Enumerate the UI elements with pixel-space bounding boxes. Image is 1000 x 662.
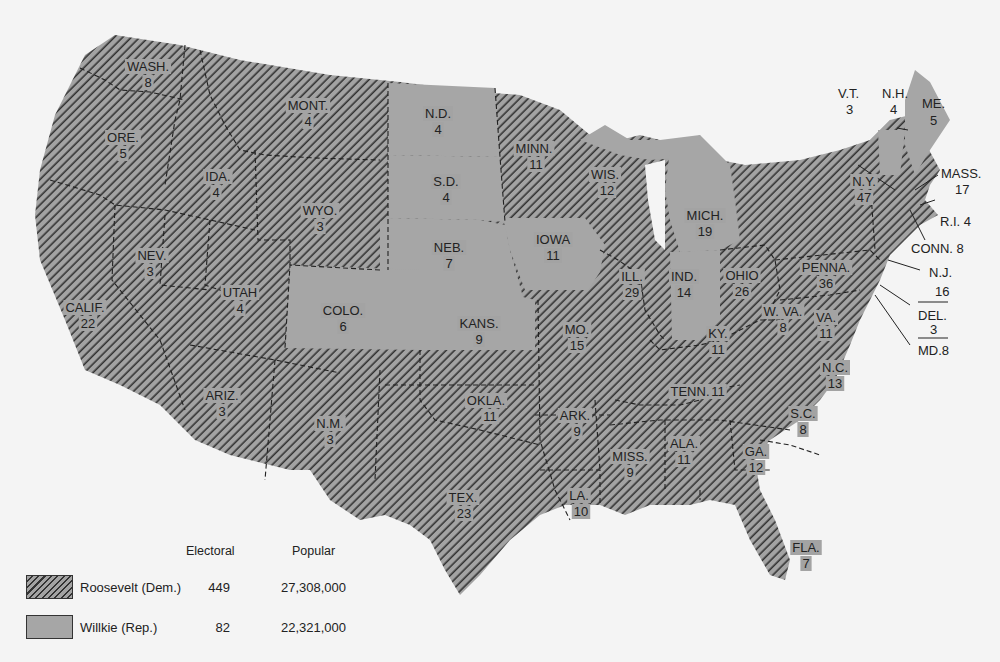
legend-popular: 22,321,000 <box>281 620 346 635</box>
svg-text:MISS.: MISS. <box>612 449 647 464</box>
svg-text:11: 11 <box>711 342 725 357</box>
svg-text:11: 11 <box>677 452 691 467</box>
svg-text:3: 3 <box>326 432 333 447</box>
svg-text:4: 4 <box>212 185 219 200</box>
svg-text:3: 3 <box>146 264 153 279</box>
svg-text:NEB.: NEB. <box>434 240 464 255</box>
svg-text:N.M.: N.M. <box>316 416 343 431</box>
svg-text:6: 6 <box>339 319 346 334</box>
svg-text:4: 4 <box>434 122 441 137</box>
svg-text:UTAH: UTAH <box>223 285 257 300</box>
label-fla: FLA.7 <box>790 540 821 571</box>
label-del: DEL. <box>918 308 947 323</box>
svg-text:13: 13 <box>828 376 842 391</box>
svg-text:WASH.: WASH. <box>127 59 169 74</box>
svg-text:11: 11 <box>529 157 543 172</box>
svg-text:8: 8 <box>144 75 151 90</box>
svg-text:ARIZ.: ARIZ. <box>205 388 238 403</box>
label-mass-votes: 17 <box>955 182 969 197</box>
label-tenn: TENN.11 <box>669 384 727 399</box>
svg-text:9: 9 <box>573 424 580 439</box>
svg-text:MONT.: MONT. <box>288 98 328 113</box>
label-vt-votes: 3 <box>846 102 853 117</box>
svg-text:S.C.: S.C. <box>790 406 815 421</box>
svg-text:ILL.: ILL. <box>621 269 643 284</box>
svg-text:W. VA.: W. VA. <box>764 304 803 319</box>
svg-text:8: 8 <box>779 320 786 335</box>
svg-text:11: 11 <box>546 248 560 263</box>
svg-text:N.D.: N.D. <box>425 106 451 121</box>
label-nh: N.H. <box>882 86 908 101</box>
svg-text:ARK.: ARK. <box>560 408 590 423</box>
svg-text:MINN.: MINN. <box>516 141 553 156</box>
label-mass: MASS. <box>941 166 981 181</box>
legend-popular: 27,308,000 <box>281 580 346 595</box>
svg-text:OKLA.: OKLA. <box>467 393 505 408</box>
svg-text:3: 3 <box>316 219 323 234</box>
svg-text:19: 19 <box>698 224 712 239</box>
svg-text:S.D.: S.D. <box>433 174 458 189</box>
legend-electoral: 82 <box>190 620 230 635</box>
svg-text:11: 11 <box>711 384 725 399</box>
svg-text:4: 4 <box>236 301 243 316</box>
legend: Electoral Popular Roosevelt (Dem.) 449 2… <box>26 540 406 650</box>
svg-text:8: 8 <box>799 422 806 437</box>
label-me-votes: 5 <box>930 113 937 128</box>
svg-text:7: 7 <box>445 256 452 271</box>
legend-row-roosevelt: Roosevelt (Dem.) 449 27,308,000 <box>26 574 406 600</box>
svg-text:26: 26 <box>735 284 749 299</box>
label-nj-votes: 16 <box>935 284 949 299</box>
svg-text:VA.: VA. <box>816 310 836 325</box>
svg-text:ORE.: ORE. <box>107 130 139 145</box>
svg-text:15: 15 <box>570 338 584 353</box>
svg-text:ALA.: ALA. <box>670 436 698 451</box>
legend-header-popular: Popular <box>292 544 335 558</box>
svg-text:14: 14 <box>677 285 691 300</box>
svg-text:36: 36 <box>819 276 833 291</box>
svg-text:IOWA: IOWA <box>536 232 571 247</box>
solid-swatch-icon <box>26 615 73 639</box>
legend-electoral: 449 <box>190 580 230 595</box>
svg-text:22: 22 <box>81 316 95 331</box>
svg-text:LA.: LA. <box>569 488 589 503</box>
legend-candidate: Roosevelt (Dem.) <box>80 580 181 595</box>
svg-text:12: 12 <box>600 183 614 198</box>
svg-text:CALIF.: CALIF. <box>65 300 104 315</box>
svg-text:29: 29 <box>625 285 639 300</box>
svg-text:7: 7 <box>802 556 809 571</box>
legend-row-willkie: Willkie (Rep.) 82 22,321,000 <box>26 614 406 640</box>
svg-text:PENNA.: PENNA. <box>802 260 850 275</box>
svg-text:GA.: GA. <box>745 444 767 459</box>
svg-text:9: 9 <box>626 465 633 480</box>
svg-text:WIS.: WIS. <box>591 167 619 182</box>
svg-text:4: 4 <box>304 114 311 129</box>
legend-header-electoral: Electoral <box>186 544 235 558</box>
label-nj: N.J. <box>929 265 952 280</box>
svg-text:MO.: MO. <box>565 322 590 337</box>
svg-text:KANS.: KANS. <box>459 316 498 331</box>
svg-text:COLO.: COLO. <box>323 303 363 318</box>
legend-candidate: Willkie (Rep.) <box>80 620 157 635</box>
svg-text:KY.: KY. <box>708 326 727 341</box>
label-md: MD.8 <box>918 343 949 358</box>
label-vt: V.T. <box>838 86 859 101</box>
svg-text:TENN.: TENN. <box>671 384 710 399</box>
svg-text:N.Y.: N.Y. <box>852 174 876 189</box>
svg-text:11: 11 <box>819 326 833 341</box>
svg-text:IDA.: IDA. <box>205 169 230 184</box>
svg-text:9: 9 <box>475 332 482 347</box>
label-del-votes: 3 <box>930 322 937 337</box>
hatched-swatch-icon <box>26 575 73 599</box>
svg-text:N.C.: N.C. <box>822 360 848 375</box>
svg-text:11: 11 <box>483 409 497 424</box>
svg-text:3: 3 <box>218 404 225 419</box>
svg-text:WYO.: WYO. <box>303 203 338 218</box>
svg-text:NEV.: NEV. <box>137 248 166 263</box>
label-me: ME. <box>922 96 945 111</box>
svg-text:IND.: IND. <box>671 269 697 284</box>
svg-text:FLA.: FLA. <box>792 540 819 555</box>
svg-text:12: 12 <box>749 460 763 475</box>
svg-text:OHIO: OHIO <box>725 268 758 283</box>
label-conn: CONN. 8 <box>911 241 964 256</box>
svg-text:23: 23 <box>457 506 471 521</box>
